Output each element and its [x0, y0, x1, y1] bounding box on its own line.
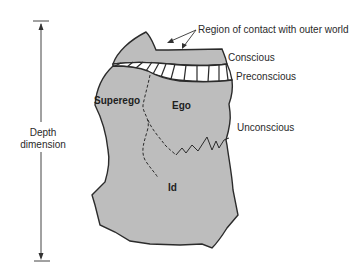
conscious-region — [113, 32, 227, 66]
conscious-label: Conscious — [228, 52, 275, 63]
ego-label: Ego — [172, 100, 191, 111]
contact-label: Region of contact with outer world — [198, 24, 349, 35]
depth-label-line1: Depth — [30, 127, 57, 138]
arrow-icon — [182, 43, 187, 49]
id-label: Id — [168, 182, 177, 193]
mind-structure-diagram: Depth dimension R — [0, 0, 364, 265]
preconscious-label: Preconscious — [236, 71, 296, 82]
unconscious-label: Unconscious — [237, 122, 294, 133]
unconscious-body — [92, 66, 238, 248]
arrow-icon — [167, 38, 174, 43]
superego-label: Superego — [94, 95, 140, 106]
arrow-down-icon — [39, 253, 44, 260]
arrow-up-icon — [39, 23, 44, 30]
depth-label-line2: dimension — [20, 139, 66, 150]
contact-pointers — [167, 30, 196, 49]
depth-axis: Depth dimension — [20, 21, 66, 261]
